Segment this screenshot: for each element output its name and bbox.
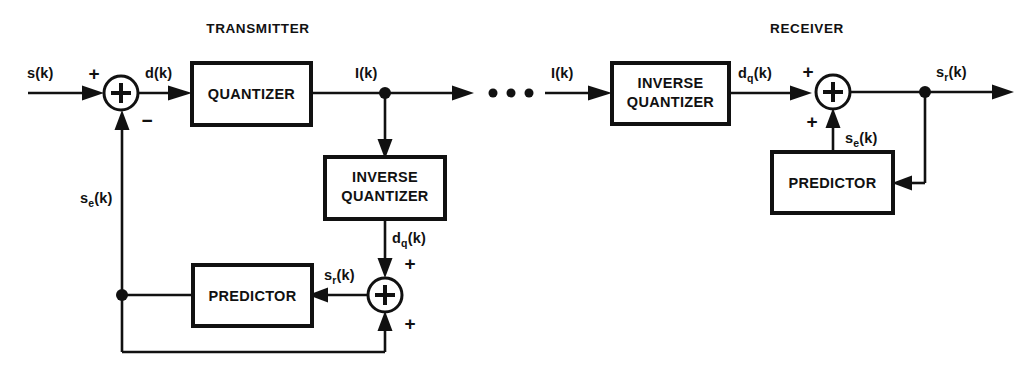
sign-rx-sum-bottom-plus: + <box>806 111 817 132</box>
sign-tx-recon-sum-top-plus: + <box>404 253 415 274</box>
label-index-i-rx: I(k) <box>551 65 574 81</box>
arrowhead-d-to-quantizer <box>168 86 192 101</box>
channel-ellipsis-dot-1 <box>489 89 498 98</box>
arrowhead-se-into-input-sum <box>115 110 130 130</box>
label-dq-rx: dq(k) <box>738 65 772 84</box>
label-index-i-tx: I(k) <box>355 65 378 81</box>
arrowhead-channel-out <box>452 86 474 101</box>
label-difference-d: d(k) <box>145 65 172 81</box>
arrowhead-into-rx-inverse-quantizer <box>588 86 612 101</box>
arrowhead-input-to-sum <box>82 86 104 101</box>
label-se-tx: se(k) <box>80 190 113 209</box>
sign-tx-sum-feedback-minus: − <box>141 110 152 131</box>
channel-ellipsis-dot-2 <box>507 89 516 98</box>
label-tx-inverse-quantizer-line2: QUANTIZER <box>341 188 429 204</box>
channel-ellipsis-dot-3 <box>525 89 534 98</box>
arrowhead-tx-loop-into-recon-sum <box>378 311 393 331</box>
receiver-title: RECEIVER <box>770 21 844 36</box>
sign-tx-sum-input-plus: + <box>88 63 99 84</box>
label-input-s: s(k) <box>27 65 54 81</box>
label-se-rx: se(k) <box>845 130 878 149</box>
label-tx-quantizer: QUANTIZER <box>208 86 296 102</box>
arrowhead-rx-se-into-sum <box>826 108 841 128</box>
arrowhead-rx-output <box>992 85 1014 100</box>
label-rx-inverse-quantizer-line1: INVERSE <box>638 75 704 91</box>
adpcm-block-diagram: TRANSMITTER RECEIVER s(k) + − d(k) QUANT… <box>0 0 1035 383</box>
label-tx-predictor: PREDICTOR <box>209 288 297 304</box>
arrowhead-rx-dq-into-sum <box>790 86 812 101</box>
label-rx-inverse-quantizer-line2: QUANTIZER <box>627 94 715 110</box>
transmitter-title: TRANSMITTER <box>206 21 309 36</box>
label-tx-inverse-quantizer-line1: INVERSE <box>352 169 418 185</box>
label-rx-predictor: PREDICTOR <box>789 175 877 191</box>
label-sr-rx: sr(k) <box>936 64 967 83</box>
sign-tx-recon-sum-bottom-plus: + <box>404 313 415 334</box>
arrowhead-dq-into-recon-sum <box>378 258 393 278</box>
label-dq-tx: dq(k) <box>392 230 426 249</box>
label-sr-tx: sr(k) <box>324 267 355 286</box>
diagram-canvas: TRANSMITTER RECEIVER s(k) + − d(k) QUANT… <box>0 0 1035 383</box>
sign-rx-sum-top-plus: + <box>802 61 813 82</box>
